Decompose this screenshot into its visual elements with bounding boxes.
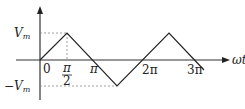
x-axis-label: ωt [232, 53, 245, 67]
vm-label: Vm [14, 26, 31, 41]
three-pi-label: 3π [187, 63, 203, 77]
pi-label: π [89, 62, 99, 76]
two-pi-label: 2π [142, 63, 158, 77]
x-axis-arrow-icon [222, 57, 230, 63]
origin-label: 0 [43, 62, 51, 76]
y-axis-arrow-icon [37, 6, 43, 14]
half-pi-numerator: π [62, 61, 72, 75]
neg-vm-label: −Vm [4, 79, 31, 94]
half-pi-denominator: 2 [63, 74, 71, 88]
triangular-wave-diagram: Vm −Vm 0 π 2 π 2π 3π ωt [0, 0, 245, 109]
